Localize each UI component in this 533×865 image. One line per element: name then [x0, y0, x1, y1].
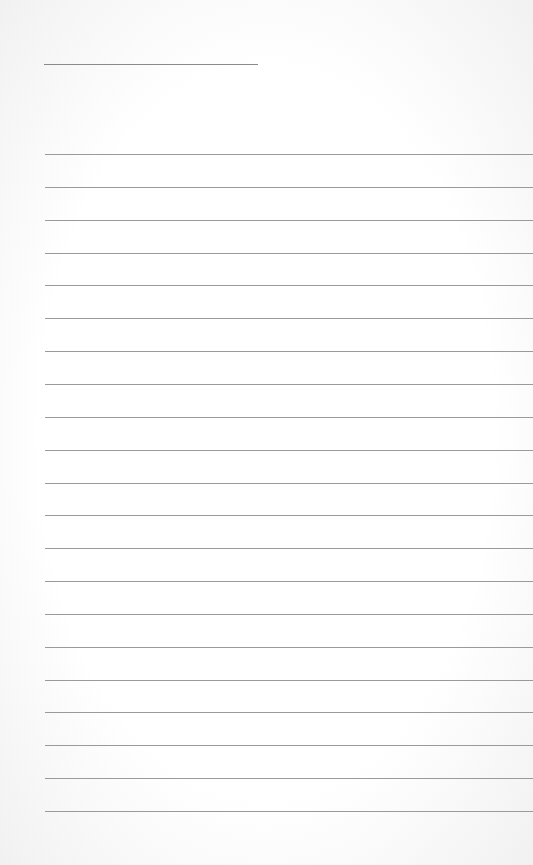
ruled-line: [45, 680, 533, 681]
ruled-line: [45, 450, 533, 451]
ruled-line: [45, 351, 533, 352]
ruled-line: [45, 647, 533, 648]
title-line: [44, 64, 258, 65]
ruled-line: [45, 384, 533, 385]
ruled-line: [45, 548, 533, 549]
ruled-line: [45, 417, 533, 418]
ruled-line: [45, 811, 533, 812]
ruled-line: [45, 318, 533, 319]
lined-paper: [0, 0, 533, 865]
ruled-line: [45, 515, 533, 516]
ruled-line: [45, 778, 533, 779]
ruled-line: [45, 745, 533, 746]
ruled-line: [45, 253, 533, 254]
ruled-line: [45, 614, 533, 615]
ruled-line: [45, 285, 533, 286]
ruled-line: [45, 581, 533, 582]
ruled-line: [45, 712, 533, 713]
ruled-line: [45, 187, 533, 188]
ruled-line: [45, 483, 533, 484]
ruled-line: [45, 220, 533, 221]
ruled-line: [45, 154, 533, 155]
